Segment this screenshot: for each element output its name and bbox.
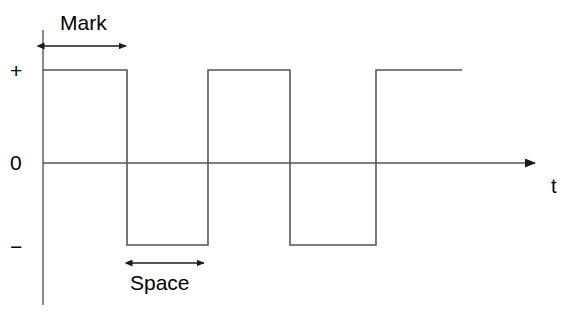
waveform-canvas [0,0,573,315]
mark-annotation-label: Mark [60,12,107,33]
level-label-negative: − [10,236,22,257]
space-annotation-label: Space [130,272,190,293]
level-label-zero: 0 [10,152,22,173]
signal-waveform-diagram: + 0 − t Mark Space [0,0,573,315]
signal-trace [43,70,462,245]
level-label-positive: + [10,60,22,81]
time-axis-label: t [551,176,557,196]
